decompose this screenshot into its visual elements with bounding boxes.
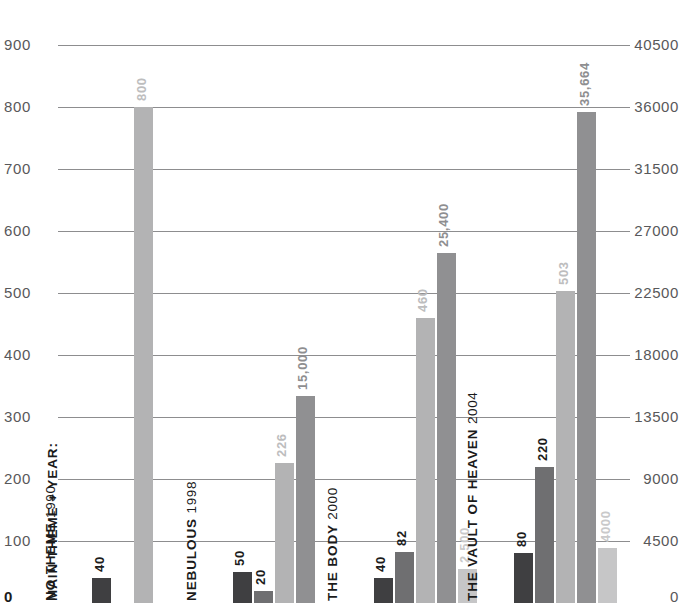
bar xyxy=(535,467,554,603)
bar-column: 460 xyxy=(416,0,435,603)
bar-group: NEBULOUS 1998502022615,000 xyxy=(199,0,340,603)
bar-column: 15,000 xyxy=(296,0,315,603)
right-axis-tick-label: 36000 xyxy=(634,99,679,114)
right-axis-tick-label: 0 xyxy=(670,589,679,603)
left-axis-tick-label: 200 xyxy=(4,471,31,486)
left-axis-tick-label: 800 xyxy=(4,99,31,114)
bar-column: 40 xyxy=(374,0,393,603)
category-label: NEBULOUS 1998 xyxy=(184,481,199,601)
bar-column: 82 xyxy=(395,0,414,603)
right-axis-tick-label: 40500 xyxy=(634,37,679,52)
bar-set: 40800 xyxy=(92,0,197,603)
bar xyxy=(437,253,456,603)
bar-column xyxy=(155,0,174,603)
bar-column: 4000 xyxy=(598,0,617,603)
bar-group: THE BODY 2000408246025,4002,500 xyxy=(340,0,481,603)
bar-value-label: 220 xyxy=(535,437,550,461)
left-axis-tick-label: 300 xyxy=(4,409,31,424)
bar xyxy=(416,318,435,603)
category-label: THE VAULT OF HEAVEN 2004 xyxy=(465,392,480,601)
x-axis-caption: MAIN THEME + YEAR: xyxy=(45,442,60,601)
bar-value-label: 4000 xyxy=(598,510,613,542)
bar-value-label: 800 xyxy=(134,77,149,101)
bar-column: 80 xyxy=(514,0,533,603)
category-name: NEBULOUS xyxy=(184,513,199,601)
axis-tick-mark xyxy=(621,417,630,418)
axis-tick-mark xyxy=(621,45,630,46)
axis-tick-mark xyxy=(621,231,630,232)
bar-value-label: 25,400 xyxy=(436,203,451,247)
bar-value-label: 40 xyxy=(92,556,107,572)
axis-tick-mark xyxy=(621,541,630,542)
bar-value-label: 503 xyxy=(556,261,571,285)
left-axis-tick-label: 900 xyxy=(4,37,31,52)
category-label: THE BODY 2000 xyxy=(325,487,340,601)
bar-column: 800 xyxy=(134,0,153,603)
right-axis-tick-label: 18000 xyxy=(634,347,679,362)
bar xyxy=(233,572,252,603)
bar-value-label: 15,000 xyxy=(295,346,310,390)
bar-column: 40 xyxy=(92,0,111,603)
bar xyxy=(275,463,294,603)
bar xyxy=(395,552,414,603)
bar-column: 25,400 xyxy=(437,0,456,603)
plot-area: NO THEME 199040800NEBULOUS 1998502022615… xyxy=(58,0,621,603)
bar xyxy=(296,396,315,603)
category-name: THE BODY xyxy=(325,520,340,601)
bar-group: THE VAULT OF HEAVEN 20048022050335,66440… xyxy=(480,0,621,603)
left-axis-tick-label: 0 xyxy=(4,589,13,603)
bar-value-label: 460 xyxy=(415,288,430,312)
category-name: THE VAULT OF HEAVEN xyxy=(465,424,480,601)
right-axis-tick-label: 9000 xyxy=(643,471,679,486)
axis-tick-mark xyxy=(621,107,630,108)
right-axis-tick-label: 13500 xyxy=(634,409,679,424)
left-axis-tick-label: 700 xyxy=(4,161,31,176)
category-year: 2000 xyxy=(325,487,340,519)
right-axis-tick-label: 31500 xyxy=(634,161,679,176)
left-axis-tick-label: 500 xyxy=(4,285,31,300)
bar-value-label: 50 xyxy=(232,550,247,566)
left-axis-tick-label: 100 xyxy=(4,533,31,548)
left-axis-tick-label: 400 xyxy=(4,347,31,362)
axis-tick-mark xyxy=(621,169,630,170)
bar-value-label: 80 xyxy=(514,532,529,548)
bar-set: 8022050335,6644000 xyxy=(514,0,619,603)
bar xyxy=(556,291,575,603)
bar xyxy=(374,578,393,603)
bar-value-label: 35,664 xyxy=(577,62,592,106)
bar-column: 50 xyxy=(233,0,252,603)
category-year: 1998 xyxy=(184,481,199,513)
left-axis-tick-label: 600 xyxy=(4,223,31,238)
bar xyxy=(254,591,273,603)
bar-column: 220 xyxy=(535,0,554,603)
bar-value-label: 226 xyxy=(274,433,289,457)
bar-set: 502022615,000 xyxy=(233,0,338,603)
bar-value-label: 20 xyxy=(253,569,268,585)
bar-column: 503 xyxy=(556,0,575,603)
bar-column: 20 xyxy=(254,0,273,603)
bar-group: NO THEME 199040800 xyxy=(58,0,199,603)
right-axis-tick-label: 27000 xyxy=(634,223,679,238)
bar xyxy=(134,107,153,603)
right-axis-tick-label: 4500 xyxy=(643,533,679,548)
axis-tick-mark xyxy=(621,293,630,294)
right-axis-tick-label: 22500 xyxy=(634,285,679,300)
bar xyxy=(598,548,617,603)
bar-set: 408246025,4002,500 xyxy=(374,0,479,603)
bar-column: 226 xyxy=(275,0,294,603)
axis-tick-mark xyxy=(621,479,630,480)
bar-value-label: 82 xyxy=(394,530,409,546)
bar-column xyxy=(113,0,132,603)
category-year: 2004 xyxy=(465,392,480,424)
bar-value-label: 40 xyxy=(373,556,388,572)
bar-column: 35,664 xyxy=(577,0,596,603)
bar-chart: 0100200300400500600700800900 04500900013… xyxy=(0,0,683,603)
axis-tick-mark xyxy=(621,355,630,356)
bar xyxy=(92,578,111,603)
bar xyxy=(577,112,596,603)
bar xyxy=(514,553,533,603)
